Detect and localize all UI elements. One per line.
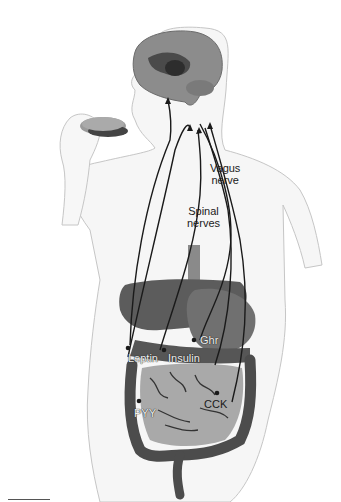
label-cck: CCK (204, 398, 227, 410)
label-spinal-nerves: Spinal nerves (187, 205, 220, 229)
label-spinal-line1: Spinal (187, 205, 220, 217)
small-intestine (140, 364, 243, 447)
label-vagus-line1: Vagus (210, 162, 240, 174)
divider-rule (8, 499, 50, 500)
pyy-dot (137, 399, 142, 404)
label-spinal-line2: nerves (187, 217, 220, 229)
label-leptin: Leptin (128, 352, 158, 364)
leptin-dot (126, 346, 131, 351)
label-vagus-line2: nerve (210, 174, 240, 186)
insulin-dot (162, 348, 167, 353)
label-vagus-nerve: Vagus nerve (210, 162, 240, 186)
ghrelin-dot (192, 338, 197, 343)
gut-brain-diagram: Vagus nerve Spinal nerves Ghr Leptin Ins… (0, 0, 341, 502)
cck-dot (215, 391, 220, 396)
label-insulin: Insulin (168, 352, 200, 364)
label-pyy: PYY (134, 407, 156, 419)
label-ghrelin: Ghr (200, 334, 218, 346)
